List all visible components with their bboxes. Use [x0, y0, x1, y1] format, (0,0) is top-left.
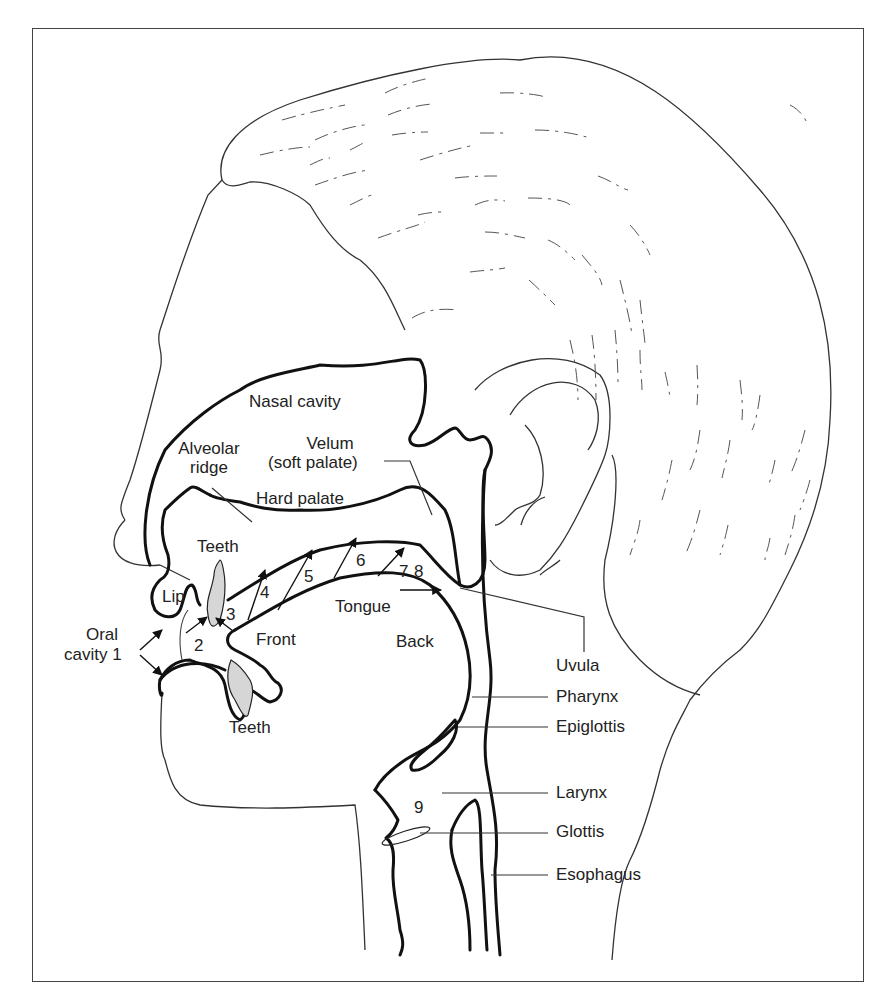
place-number-8: 8: [414, 563, 423, 581]
leader-uvula: [460, 588, 584, 652]
label-hard-palate: Hard palate: [256, 489, 344, 509]
label-nasal-cavity: Nasal cavity: [249, 392, 341, 412]
label-teeth-lower: Teeth: [229, 718, 271, 738]
label-oral-cavity-line2: cavity 1: [64, 645, 122, 665]
arrow-oral-cavity-lower: [140, 655, 162, 675]
label-front: Front: [256, 630, 296, 650]
place-number-4: 4: [260, 584, 269, 602]
arrow-2: [186, 617, 207, 633]
articulation-arrows: [140, 538, 441, 675]
hair-strokes: [260, 78, 810, 560]
place-number-2: 2: [194, 637, 203, 655]
teeth: [207, 560, 252, 716]
label-tongue: Tongue: [335, 597, 391, 617]
place-number-6: 6: [356, 552, 365, 570]
label-oral-cavity-line1: Oral: [62, 625, 142, 645]
place-number-9: 9: [414, 799, 423, 817]
vocal-tract-drawing: [0, 0, 895, 1007]
label-larynx: Larynx: [556, 783, 607, 803]
label-lip: Lip: [162, 587, 185, 607]
label-alveolar-ridge-line2: ridge: [163, 458, 255, 478]
label-esophagus: Esophagus: [556, 865, 641, 885]
label-alveolar-ridge-line1: Alveolar: [163, 439, 255, 459]
label-uvula: Uvula: [556, 656, 599, 676]
label-pharynx: Pharynx: [556, 687, 618, 707]
leader-lines: [212, 461, 584, 875]
head-outline: [114, 57, 831, 960]
label-teeth-upper: Teeth: [197, 537, 239, 557]
label-epiglottis: Epiglottis: [556, 717, 625, 737]
label-velum-line1: Velum: [270, 434, 390, 454]
label-glottis: Glottis: [556, 822, 604, 842]
label-back: Back: [396, 632, 434, 652]
place-number-3: 3: [226, 606, 235, 624]
arrow-oral-cavity-upper: [140, 630, 162, 650]
label-velum-line2: (soft palate): [268, 453, 358, 473]
place-number-7: 7: [399, 563, 408, 581]
upper-teeth: [207, 560, 225, 626]
place-number-5: 5: [304, 568, 313, 586]
